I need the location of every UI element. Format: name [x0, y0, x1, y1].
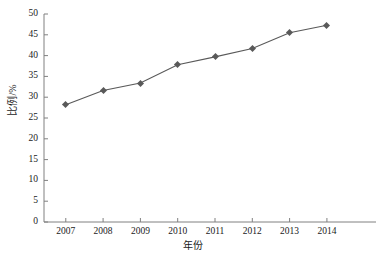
y-axis-title: 比例/% [8, 65, 18, 135]
line-chart: 05101520253035404550 2007200820092010201… [0, 0, 385, 261]
x-tick-label-group: 20072008200920102011201220132014 [0, 0, 385, 261]
x-axis-title: 年份 [0, 240, 385, 251]
x-tick-label: 2014 [305, 226, 349, 236]
